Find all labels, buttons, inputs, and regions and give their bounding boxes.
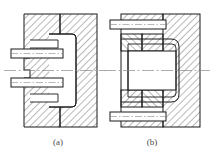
panel-b-horizontal-core-pin-top: [110, 20, 166, 29]
panel-b-horizontal-core-pin-bottom: [110, 112, 166, 121]
panel-b: [104, 14, 210, 127]
panel-a-caption: (a): [43, 137, 73, 147]
panel-a-stepped-notch-upper: [30, 40, 58, 48]
panel-a-horizontal-core-pin-lower: [11, 78, 63, 87]
panel-b-wedge-hatch-upper: [121, 34, 163, 51]
cross-section-drawing: [0, 0, 214, 168]
panel-a-horizontal-core-pin-upper: [11, 49, 63, 58]
panel-a-stepped-notch-lower: [30, 94, 58, 102]
panel-b-wedge-hatch-lower: [121, 90, 163, 107]
figure-container: (a) (b): [0, 0, 214, 168]
panel-a: [4, 14, 105, 127]
panel-b-caption: (b): [137, 137, 167, 147]
